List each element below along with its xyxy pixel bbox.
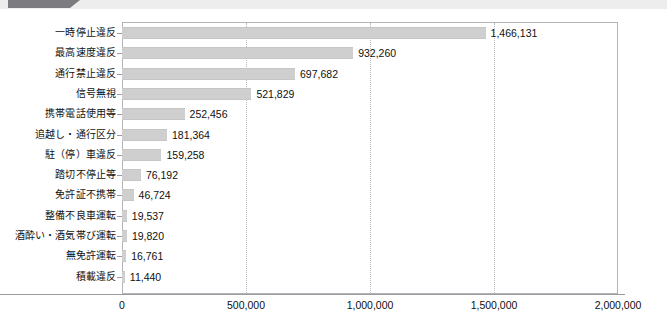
category-label: 携帯電話使用等 xyxy=(0,108,116,120)
category-label: 通行禁止違反 xyxy=(0,68,116,80)
category-label: 一時停止違反 xyxy=(0,27,116,39)
bar xyxy=(122,68,295,80)
bar xyxy=(122,27,486,39)
category-label: 積載違反 xyxy=(0,271,116,283)
bar xyxy=(122,189,134,201)
bar-value-label: 19,820 xyxy=(132,230,164,242)
chart-row: 最高速度違反932,260 xyxy=(0,43,667,63)
x-axis-line xyxy=(0,294,625,295)
bar-value-label: 159,258 xyxy=(166,149,204,161)
chart-row: 無免許運転16,761 xyxy=(0,246,667,266)
category-label: 無免許運転 xyxy=(0,250,116,262)
x-tick-label: 1,000,000 xyxy=(347,299,394,312)
bar-value-label: 697,682 xyxy=(300,68,338,80)
bar-value-label: 521,829 xyxy=(256,88,294,100)
bar xyxy=(122,149,161,161)
chart-row: 信号無視521,829 xyxy=(0,84,667,104)
bar xyxy=(122,271,125,283)
x-tick-label: 1,500,000 xyxy=(471,299,518,312)
bar-value-label: 76,192 xyxy=(146,169,178,181)
chart-row: 一時停止違反1,466,131 xyxy=(0,23,667,43)
bar xyxy=(122,230,127,242)
x-tick-label: 0 xyxy=(119,299,125,312)
category-label: 駐（停）車違反 xyxy=(0,149,116,161)
bar xyxy=(122,169,141,181)
bar-value-label: 16,761 xyxy=(131,250,163,262)
bar-value-label: 19,537 xyxy=(132,210,164,222)
chart-row: 免許証不携帯46,724 xyxy=(0,185,667,205)
category-label: 免許証不携帯 xyxy=(0,189,116,201)
chart-row: 整備不良車運転19,537 xyxy=(0,206,667,226)
bar xyxy=(122,129,167,141)
category-label: 信号無視 xyxy=(0,88,116,100)
bar xyxy=(122,250,126,262)
chart-row: 駐（停）車違反159,258 xyxy=(0,145,667,165)
bar xyxy=(122,47,353,59)
category-label: 踏切不停止等 xyxy=(0,169,116,181)
chart-row: 追越し・通行区分181,364 xyxy=(0,125,667,145)
chart-row: 酒酔い・酒気帯び運転19,820 xyxy=(0,226,667,246)
bar-value-label: 1,466,131 xyxy=(491,27,538,39)
bar xyxy=(122,210,127,222)
bar-value-label: 181,364 xyxy=(172,129,210,141)
bar xyxy=(122,88,251,100)
x-tick-label: 500,000 xyxy=(227,299,265,312)
category-label: 整備不良車運転 xyxy=(0,210,116,222)
chart-row: 踏切不停止等76,192 xyxy=(0,165,667,185)
chart-row: 携帯電話使用等252,456 xyxy=(0,104,667,124)
chart-row: 通行禁止違反697,682 xyxy=(0,64,667,84)
bar-value-label: 46,724 xyxy=(139,189,171,201)
bar xyxy=(122,108,185,120)
chart-row: 積載違反11,440 xyxy=(0,267,667,287)
bar-value-label: 932,260 xyxy=(358,47,396,59)
category-label: 追越し・通行区分 xyxy=(0,129,116,141)
bar-chart: 一時停止違反1,466,131最高速度違反932,260通行禁止違反697,68… xyxy=(0,0,667,336)
bar-value-label: 252,456 xyxy=(190,108,228,120)
category-label: 酒酔い・酒気帯び運転 xyxy=(0,230,116,242)
bar-value-label: 11,440 xyxy=(130,271,161,283)
category-label: 最高速度違反 xyxy=(0,47,116,59)
x-tick-label: 2,000,000 xyxy=(595,299,642,312)
chart-rows: 一時停止違反1,466,131最高速度違反932,260通行禁止違反697,68… xyxy=(0,22,667,294)
